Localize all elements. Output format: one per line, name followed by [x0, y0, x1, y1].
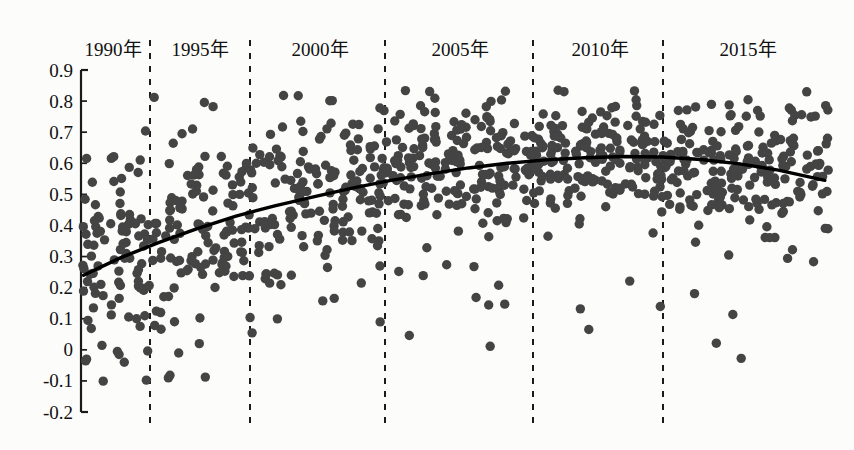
- scatter-point: [629, 138, 638, 147]
- scatter-point: [166, 205, 175, 214]
- scatter-point: [470, 184, 479, 193]
- scatter-point: [133, 168, 142, 177]
- scatter-point: [116, 187, 125, 196]
- scatter-point: [478, 219, 487, 228]
- scatter-point: [780, 174, 789, 183]
- scatter-point: [750, 173, 759, 182]
- scatter-point: [623, 121, 632, 130]
- scatter-point: [273, 314, 282, 323]
- y-axis-tick-label: 0.4: [49, 215, 73, 236]
- scatter-point: [472, 194, 481, 203]
- scatter-point: [321, 161, 330, 170]
- scatter-point: [236, 177, 245, 186]
- scatter-point: [754, 127, 763, 136]
- scatter-point: [357, 226, 366, 235]
- scatter-point: [529, 188, 538, 197]
- scatter-point: [809, 257, 818, 266]
- scatter-point: [394, 210, 403, 219]
- scatter-point: [189, 170, 198, 179]
- scatter-point: [318, 296, 327, 305]
- scatter-point: [521, 165, 530, 174]
- scatter-point: [330, 294, 339, 303]
- scatter-point: [236, 247, 245, 256]
- scatter-point: [217, 152, 226, 161]
- scatter-point: [270, 269, 279, 278]
- scatter-point: [459, 139, 468, 148]
- scatter-point: [584, 118, 593, 127]
- scatter-point: [398, 143, 407, 152]
- scatter-point: [372, 209, 381, 218]
- y-axis-tick-label: 0.6: [49, 153, 73, 174]
- scatter-point: [375, 261, 384, 270]
- scatter-point: [503, 214, 512, 223]
- scatter-point: [584, 325, 593, 334]
- scatter-point: [818, 189, 827, 198]
- scatter-point: [395, 110, 404, 119]
- x-axis-year-label: 2000年: [292, 39, 349, 60]
- scatter-point: [606, 144, 615, 153]
- scatter-point: [431, 137, 440, 146]
- scatter-point: [715, 151, 724, 160]
- scatter-point: [294, 185, 303, 194]
- scatter-point: [182, 266, 191, 275]
- scatter-point: [287, 207, 296, 216]
- scatter-point: [98, 291, 107, 300]
- scatter-point: [113, 347, 122, 356]
- scatter-point: [751, 194, 760, 203]
- scatter-point: [239, 256, 248, 265]
- scatter-point: [739, 195, 748, 204]
- scatter-point: [132, 314, 141, 323]
- scatter-point: [691, 102, 700, 111]
- scatter-point: [171, 196, 180, 205]
- scatter-point: [100, 235, 109, 244]
- scatter-point: [299, 242, 308, 251]
- scatter-point: [546, 194, 555, 203]
- scatter-point: [235, 190, 244, 199]
- scatter-point: [456, 124, 465, 133]
- scatter-point: [405, 331, 414, 340]
- scatter-point: [519, 213, 528, 222]
- scatter-point: [422, 243, 431, 252]
- scatter-point: [229, 272, 238, 281]
- scatter-point: [255, 241, 264, 250]
- scatter-point: [802, 87, 811, 96]
- scatter-point: [574, 159, 583, 168]
- scatter-point: [656, 302, 665, 311]
- scatter-point: [676, 188, 685, 197]
- scatter-point: [107, 310, 116, 319]
- scatter-point: [725, 204, 734, 213]
- scatter-point: [704, 126, 713, 135]
- scatter-point: [493, 142, 502, 151]
- scatter-point: [141, 126, 150, 135]
- scatter-point: [353, 145, 362, 154]
- scatter-point: [134, 231, 143, 240]
- scatter-point: [82, 354, 91, 363]
- scatter-point: [140, 311, 149, 320]
- scatter-point: [156, 308, 165, 317]
- scatter-point: [266, 130, 275, 139]
- scatter-point: [469, 262, 478, 271]
- scatter-point: [265, 152, 274, 161]
- scatter-point: [279, 91, 288, 100]
- scatter-point: [511, 172, 520, 181]
- scatter-point: [92, 229, 101, 238]
- scatter-point: [734, 122, 743, 131]
- scatter-point: [470, 115, 479, 124]
- scatter-point: [208, 255, 217, 264]
- scatter-point: [296, 117, 305, 126]
- scatter-point: [535, 122, 544, 131]
- scatter-point: [802, 164, 811, 173]
- scatter-point: [115, 199, 124, 208]
- scatter-point: [563, 191, 572, 200]
- scatter-point: [733, 185, 742, 194]
- scatter-point: [500, 299, 509, 308]
- scatter-point: [571, 147, 580, 156]
- scatter-point: [432, 210, 441, 219]
- scatter-point: [114, 294, 123, 303]
- scatter-point: [677, 135, 686, 144]
- scatter-point: [527, 131, 536, 140]
- scatter-point: [519, 184, 528, 193]
- scatter-point: [261, 269, 270, 278]
- scatter-point: [575, 219, 584, 228]
- scatter-point: [80, 195, 89, 204]
